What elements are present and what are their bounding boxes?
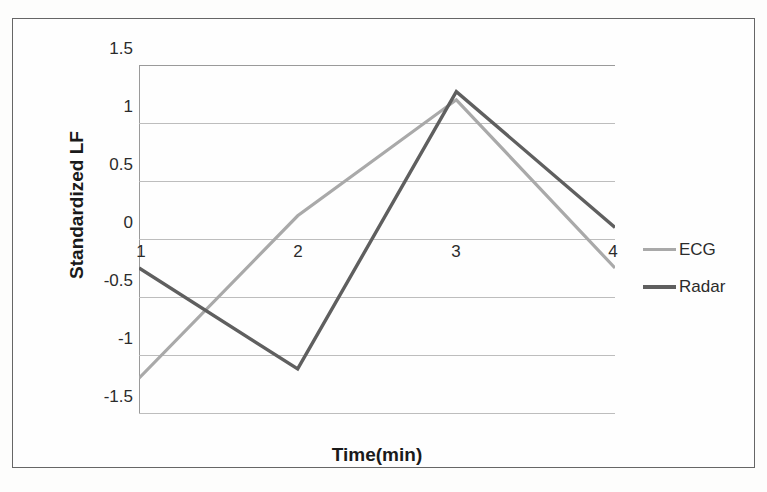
x-tick-label: 2 bbox=[286, 243, 310, 260]
legend-item-radar[interactable]: Radar bbox=[643, 268, 753, 305]
line-series-ecg bbox=[139, 100, 615, 378]
y-tick-label: 1.5 bbox=[23, 40, 133, 57]
legend-swatch-radar bbox=[643, 285, 676, 289]
chart-legend: ECG Radar bbox=[643, 231, 753, 305]
y-axis-title: Standardized LF bbox=[66, 95, 88, 315]
x-axis-title: Time(min) bbox=[139, 444, 615, 466]
y-tick-label: -1.5 bbox=[23, 388, 133, 405]
legend-label-radar: Radar bbox=[679, 278, 725, 295]
series-lines bbox=[139, 65, 615, 413]
x-tick-label: 1 bbox=[129, 243, 153, 260]
chart-frame: 1.5 1 0.5 0 -0.5 -1 -1.5 Standardized LF… bbox=[12, 18, 755, 468]
legend-swatch-ecg bbox=[643, 248, 676, 251]
y-tick-label: -1 bbox=[23, 330, 133, 347]
line-series-radar bbox=[139, 92, 615, 369]
x-tick-label: 4 bbox=[601, 243, 625, 260]
x-tick-label: 3 bbox=[444, 243, 468, 260]
legend-label-ecg: ECG bbox=[679, 241, 716, 258]
legend-item-ecg[interactable]: ECG bbox=[643, 231, 753, 268]
plot-area bbox=[139, 65, 615, 413]
gridline bbox=[139, 413, 615, 414]
